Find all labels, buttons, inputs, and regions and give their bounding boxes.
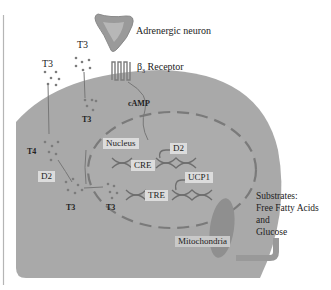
ucp1-label: UCP1 xyxy=(185,172,213,183)
substrates-line-2: Free Fatty Acids xyxy=(256,202,319,214)
t3-label-nucleus: T3 xyxy=(106,204,115,212)
cre-label: CRE xyxy=(131,160,155,171)
t3-molecules-outside-mid xyxy=(75,57,92,72)
t3-label-outside-left: T3 xyxy=(42,59,53,69)
diagram-canvas xyxy=(0,0,331,290)
beta3-receptor-label: β3 Receptor xyxy=(137,62,184,74)
substrates-line-1: Substrates: xyxy=(256,190,319,202)
substrates-line-4: Glucose xyxy=(256,226,319,238)
tre-label: TRE xyxy=(145,190,168,201)
d2-nucleus-label: D2 xyxy=(170,143,187,154)
t3-label-cytoplasm: T3 xyxy=(66,204,75,212)
t4-label: T4 xyxy=(27,148,36,156)
substrates-line-3: and xyxy=(256,214,319,226)
nucleus-label: Nucleus xyxy=(103,138,139,149)
receptor-text: Receptor xyxy=(145,61,184,72)
t3-label-outside-mid: T3 xyxy=(77,40,88,50)
adrenergic-neuron-label: Adrenergic neuron xyxy=(136,26,211,36)
camp-label: cAMP xyxy=(128,100,150,108)
mitochondria-label: Mitochondria xyxy=(175,236,230,247)
d2-cytoplasm-label: D2 xyxy=(38,171,55,182)
beta3-receptor-icon xyxy=(112,62,130,80)
t3-molecules-outside-left xyxy=(44,71,61,87)
t3-label-inside-upper: T3 xyxy=(82,116,91,124)
substrates-label: Substrates: Free Fatty Acids and Glucose xyxy=(256,190,319,238)
